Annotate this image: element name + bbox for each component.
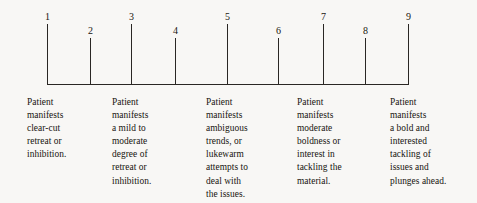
descriptor-column-9: Patientmanifestsa bold andinterestedtack… — [390, 96, 446, 188]
descriptor-line: trends, or — [206, 135, 248, 148]
descriptor-line: a mild to — [112, 122, 151, 135]
descriptor-line: retreat or — [27, 135, 66, 148]
descriptor-row: Patientmanifestsclear-cutretreat orinhib… — [0, 96, 477, 203]
scale-axis: 123456789 — [0, 0, 477, 92]
tick-mark — [227, 24, 228, 84]
descriptor-column-7: Patientmanifestsmoderateboldness orinter… — [297, 96, 342, 188]
descriptor-line: attempts to — [206, 161, 248, 174]
descriptor-line: moderate — [112, 135, 151, 148]
descriptor-column-1: Patientmanifestsclear-cutretreat orinhib… — [27, 96, 66, 161]
descriptor-line: manifests — [27, 109, 66, 122]
tick-mark — [365, 38, 366, 84]
tick-label: 9 — [404, 12, 413, 22]
descriptor-line: Patient — [206, 96, 248, 109]
descriptor-line: Patient — [27, 96, 66, 109]
descriptor-line: issues and — [390, 161, 446, 174]
tick-mark — [323, 24, 324, 84]
descriptor-column-5: Patientmanifestsambiguoustrends, orlukew… — [206, 96, 248, 201]
descriptor-line: a bold and — [390, 122, 446, 135]
tick-mark — [90, 38, 91, 84]
tick-label: 6 — [274, 26, 283, 36]
tick-label: 8 — [361, 26, 370, 36]
tick-mark — [175, 38, 176, 84]
descriptor-line: tackling of — [390, 148, 446, 161]
tick-mark — [278, 38, 279, 84]
descriptor-line: lukewarm — [206, 148, 248, 161]
tick-mark — [408, 24, 409, 84]
descriptor-line: boldness or — [297, 135, 342, 148]
descriptor-line: the issues. — [206, 188, 248, 201]
descriptor-line: tackling the — [297, 161, 342, 174]
descriptor-line: manifests — [112, 109, 151, 122]
descriptor-line: interested — [390, 135, 446, 148]
descriptor-line: material. — [297, 175, 342, 188]
descriptor-line: manifests — [206, 109, 248, 122]
tick-label: 7 — [319, 12, 328, 22]
tick-label: 4 — [171, 26, 180, 36]
descriptor-line: Patient — [390, 96, 446, 109]
descriptor-line: degree of — [112, 148, 151, 161]
tick-mark — [47, 24, 48, 84]
tick-label: 3 — [127, 12, 136, 22]
tick-label: 2 — [86, 26, 95, 36]
descriptor-line: moderate — [297, 122, 342, 135]
descriptor-line: clear-cut — [27, 122, 66, 135]
tick-label: 1 — [43, 12, 52, 22]
descriptor-line: deal with — [206, 175, 248, 188]
descriptor-column-3: Patientmanifestsa mild tomoderatedegree … — [112, 96, 151, 188]
descriptor-line: retreat or — [112, 161, 151, 174]
descriptor-line: interest in — [297, 148, 342, 161]
descriptor-line: manifests — [390, 109, 446, 122]
tick-label: 5 — [223, 12, 232, 22]
descriptor-line: inhibition. — [27, 148, 66, 161]
rating-scale-figure: 123456789 Patientmanifestsclear-cutretre… — [0, 0, 477, 203]
tick-mark — [131, 24, 132, 84]
descriptor-line: Patient — [297, 96, 342, 109]
descriptor-line: Patient — [112, 96, 151, 109]
axis-baseline — [47, 84, 409, 85]
descriptor-line: inhibition. — [112, 175, 151, 188]
descriptor-line: manifests — [297, 109, 342, 122]
descriptor-line: plunges ahead. — [390, 175, 446, 188]
descriptor-line: ambiguous — [206, 122, 248, 135]
